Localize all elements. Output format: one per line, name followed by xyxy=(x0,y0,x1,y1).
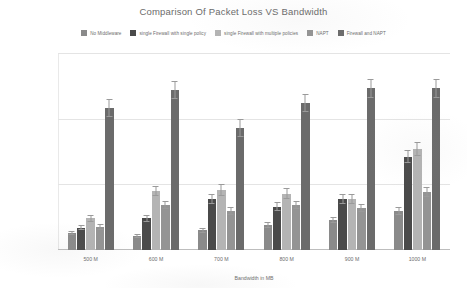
bar-single-firewall-with-multiple-policies-800M[interactable] xyxy=(282,53,290,250)
x-tick-label: 800 M xyxy=(279,256,293,262)
bar-rect xyxy=(367,88,375,250)
error-bar xyxy=(417,142,418,156)
bar-napt-500M[interactable] xyxy=(96,53,104,250)
bar-group-4 xyxy=(319,53,384,250)
bar-no-middleware-900M[interactable] xyxy=(329,53,337,250)
legend-label: single Firewall with single policy xyxy=(139,31,206,36)
legend-swatch-icon xyxy=(338,30,344,36)
plot-area: 0.000%0.500%1.000%1.500%500 M600 M700 M8… xyxy=(58,53,450,250)
legend-item-4[interactable]: Firewall and NAPT xyxy=(338,30,386,36)
legend-swatch-icon xyxy=(215,30,221,36)
error-bar xyxy=(333,217,334,224)
bar-firewall-and-napt-600M[interactable] xyxy=(171,53,179,250)
bar-no-middleware-600M[interactable] xyxy=(133,53,141,250)
bar-group-3 xyxy=(254,53,319,250)
bar-napt-600M[interactable] xyxy=(161,53,169,250)
legend-item-1[interactable]: single Firewall with single policy xyxy=(130,30,206,36)
bar-firewall-and-napt-500M[interactable] xyxy=(105,53,113,250)
error-bar xyxy=(240,119,241,137)
bar-rect xyxy=(86,218,94,250)
bar-rect xyxy=(394,211,402,250)
error-bar xyxy=(286,188,287,199)
bar-group-1 xyxy=(123,53,188,250)
bar-single-firewall-with-single-policy-500M[interactable] xyxy=(77,53,85,250)
bar-rect xyxy=(236,128,244,250)
legend-item-2[interactable]: single Firewall with multiple policies xyxy=(215,30,298,36)
error-bar xyxy=(221,184,222,196)
bar-rect xyxy=(227,211,235,250)
error-bar xyxy=(165,201,166,209)
legend-label: NAPT xyxy=(316,31,328,36)
bar-rect xyxy=(292,205,300,250)
bar-rect xyxy=(161,205,169,250)
bar-single-firewall-with-single-policy-700M[interactable] xyxy=(208,53,216,250)
bar-rect xyxy=(208,199,216,250)
bar-no-middleware-700M[interactable] xyxy=(198,53,206,250)
bar-rect xyxy=(217,190,225,250)
bar-napt-900M[interactable] xyxy=(357,53,365,250)
bar-firewall-and-napt-1000M[interactable] xyxy=(432,53,440,250)
error-bar xyxy=(230,207,231,215)
chart-title: Comparison Of Packet Loss VS Bandwidth xyxy=(0,6,467,17)
error-bar xyxy=(71,231,72,235)
bar-rect xyxy=(273,207,281,250)
bar-group-2 xyxy=(189,53,254,250)
bar-single-firewall-with-multiple-policies-600M[interactable] xyxy=(152,53,160,250)
error-bar xyxy=(267,222,268,227)
bar-single-firewall-with-single-policy-600M[interactable] xyxy=(142,53,150,250)
bar-rect xyxy=(413,149,421,250)
bar-single-firewall-with-multiple-policies-700M[interactable] xyxy=(217,53,225,250)
bar-rect xyxy=(68,233,76,250)
x-tick-label: 700 M xyxy=(214,256,228,262)
legend-item-0[interactable]: No Middleware xyxy=(81,30,121,36)
x-axis-title: Bandwidth in MB xyxy=(58,275,450,281)
bar-firewall-and-napt-800M[interactable] xyxy=(301,53,309,250)
bar-firewall-and-napt-900M[interactable] xyxy=(367,53,375,250)
bar-no-middleware-1000M[interactable] xyxy=(394,53,402,250)
bar-single-firewall-with-single-policy-800M[interactable] xyxy=(273,53,281,250)
error-bar xyxy=(342,194,343,205)
x-tick-label: 1000 M xyxy=(409,256,426,262)
error-bar xyxy=(174,81,175,99)
bar-rect xyxy=(198,230,206,250)
error-bar xyxy=(155,186,156,197)
legend-label: single Firewall with multiple policies xyxy=(224,31,298,36)
bar-rect xyxy=(171,90,179,250)
bar-rect xyxy=(329,220,337,250)
error-bar xyxy=(426,187,427,198)
bar-rect xyxy=(348,199,356,250)
bar-napt-800M[interactable] xyxy=(292,53,300,250)
bar-rect xyxy=(96,227,104,250)
x-tick-label: 500 M xyxy=(83,256,97,262)
bar-no-middleware-800M[interactable] xyxy=(264,53,272,250)
bar-single-firewall-with-single-policy-900M[interactable] xyxy=(338,53,346,250)
bar-rect xyxy=(432,88,440,250)
bar-single-firewall-with-multiple-policies-900M[interactable] xyxy=(348,53,356,250)
error-bar xyxy=(90,215,91,223)
bar-rect xyxy=(282,194,290,250)
bar-rect xyxy=(133,236,141,250)
bar-single-firewall-with-multiple-policies-500M[interactable] xyxy=(86,53,94,250)
bar-rect xyxy=(423,192,431,250)
x-tick-label: 600 M xyxy=(149,256,163,262)
error-bar xyxy=(361,204,362,212)
bar-rect xyxy=(301,103,309,250)
legend-item-3[interactable]: NAPT xyxy=(307,30,328,36)
bar-single-firewall-with-single-policy-1000M[interactable] xyxy=(404,53,412,250)
bar-napt-700M[interactable] xyxy=(227,53,235,250)
error-bar xyxy=(137,234,138,238)
error-bar xyxy=(81,225,82,230)
error-bar xyxy=(296,201,297,209)
bar-napt-1000M[interactable] xyxy=(423,53,431,250)
bar-single-firewall-with-multiple-policies-1000M[interactable] xyxy=(413,53,421,250)
bar-rect xyxy=(357,208,365,250)
bar-firewall-and-napt-700M[interactable] xyxy=(236,53,244,250)
bar-rect xyxy=(77,228,85,250)
bar-no-middleware-500M[interactable] xyxy=(68,53,76,250)
error-bar xyxy=(436,79,437,97)
bar-rect xyxy=(338,199,346,250)
error-bar xyxy=(407,150,408,163)
bar-rect xyxy=(105,108,113,250)
error-bar xyxy=(351,194,352,205)
error-bar xyxy=(305,94,306,112)
